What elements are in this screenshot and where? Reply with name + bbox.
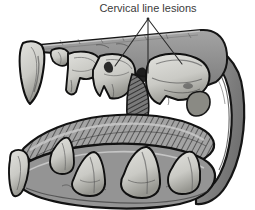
illustration-figure: Cervical line lesions bbox=[0, 0, 255, 210]
annotation-label: Cervical line lesions bbox=[99, 2, 197, 14]
illustration-canvas: Cervical line lesions bbox=[0, 0, 255, 210]
leader-apex-dot bbox=[147, 18, 150, 21]
upper-premolar-teeth bbox=[66, 52, 135, 99]
upper-back-tooth bbox=[187, 91, 210, 116]
